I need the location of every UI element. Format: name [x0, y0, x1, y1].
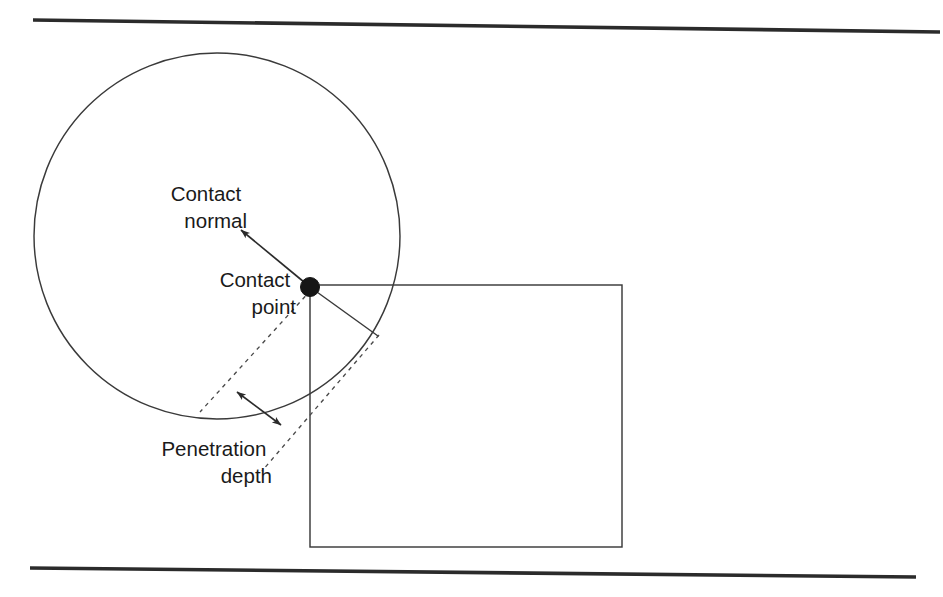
top-wall-line — [33, 20, 940, 32]
penetration-depth-double-arrow — [237, 392, 281, 425]
contact-point-dot — [301, 278, 320, 297]
circle-body — [34, 53, 400, 419]
contact-point-label: Contact point — [220, 268, 297, 318]
contact-diagram-figure: Contact normal Contact point Penetration… — [0, 0, 943, 597]
dashed-reference-line-b — [262, 335, 379, 471]
diagram-canvas: Contact normal Contact point Penetration… — [0, 0, 943, 597]
contact-normal-label: Contact normal — [171, 182, 247, 232]
radius-segment-line — [310, 287, 378, 336]
penetration-depth-label: Penetration depth — [161, 437, 272, 487]
bottom-wall-line — [30, 568, 916, 577]
box-body — [310, 285, 622, 547]
